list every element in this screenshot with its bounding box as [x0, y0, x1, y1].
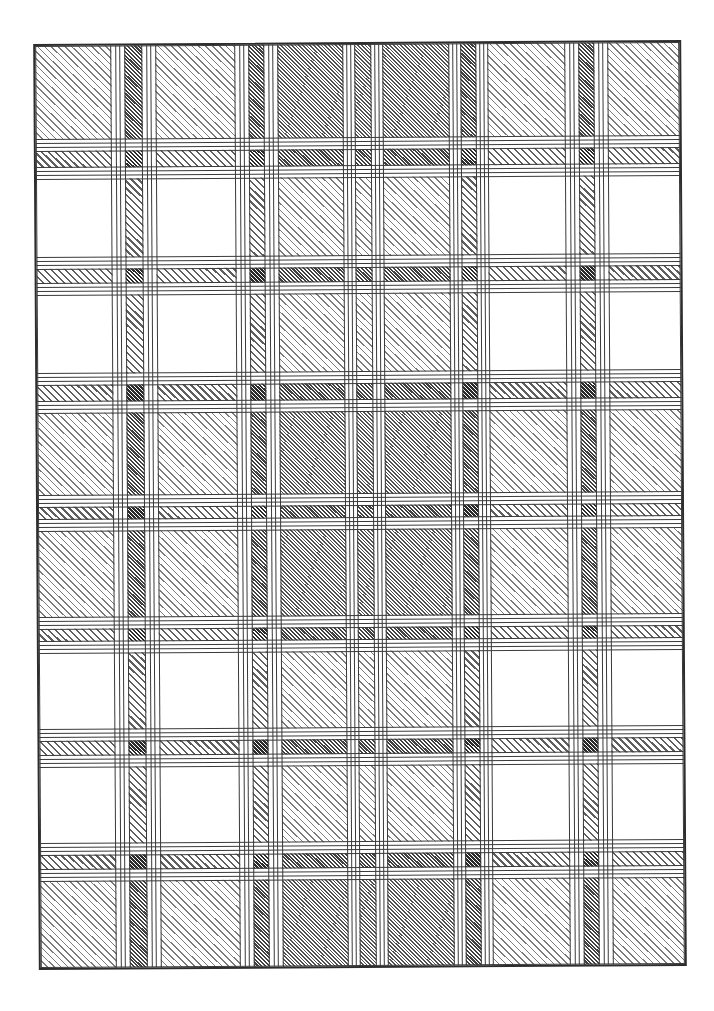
pattern-cell — [464, 650, 480, 727]
pattern-cell — [38, 507, 114, 520]
pattern-cell — [385, 504, 452, 517]
pattern-cell — [249, 178, 265, 257]
pattern-cell — [250, 268, 266, 283]
pattern-cell — [281, 627, 347, 640]
pattern-cell — [358, 651, 375, 728]
pattern-cell — [252, 740, 268, 755]
pattern-cell — [384, 266, 451, 281]
pattern-cell — [277, 44, 344, 138]
pattern-cell — [160, 880, 241, 967]
pattern-cell — [127, 530, 146, 617]
pattern-cell — [464, 738, 480, 753]
plaid-pattern-figure — [0, 0, 714, 1011]
pattern-cell — [492, 878, 571, 965]
band-outline-horizontal — [40, 755, 684, 764]
pattern-cell — [579, 148, 595, 165]
pattern-cell — [358, 627, 375, 640]
pattern-cell — [157, 268, 237, 283]
pattern-cell — [490, 504, 568, 517]
pattern-cell — [581, 504, 597, 517]
pattern-cell — [249, 150, 265, 167]
pattern-cell — [278, 149, 344, 166]
pattern-cell — [609, 265, 681, 280]
pattern-cell — [39, 629, 115, 642]
pattern-cell — [610, 527, 683, 614]
pattern-cell — [37, 385, 113, 402]
pattern-cell — [159, 740, 239, 755]
pattern-cell — [463, 504, 479, 517]
pattern-cell — [384, 382, 451, 399]
pattern-cell — [128, 628, 146, 641]
pattern-cell — [357, 505, 374, 518]
pattern-cell — [358, 739, 375, 754]
pattern-cell — [250, 384, 266, 401]
pattern-cell — [129, 854, 147, 869]
pattern-cell — [157, 384, 237, 401]
pattern-cell — [490, 528, 569, 615]
pattern-cell — [248, 45, 265, 139]
pattern-cell — [491, 626, 569, 639]
pattern-cell — [157, 412, 238, 495]
pattern-cell — [282, 853, 348, 868]
pattern-cell — [489, 266, 567, 281]
pattern-cell — [250, 294, 266, 373]
pattern-cell — [356, 411, 374, 494]
pattern-cell — [580, 410, 597, 493]
pattern-cell — [253, 854, 269, 869]
pattern-cell — [611, 737, 683, 752]
pattern-cell — [37, 269, 113, 284]
pattern-cell — [279, 411, 346, 494]
pattern-cell — [612, 877, 685, 964]
pattern-cell — [279, 293, 345, 372]
pattern-cell — [582, 738, 598, 753]
pattern-cell — [462, 410, 479, 493]
pattern-cell — [578, 43, 595, 137]
pattern-cell — [251, 530, 268, 617]
pattern-cell — [583, 878, 600, 965]
pattern-cell — [155, 45, 236, 139]
pattern-cell — [382, 43, 450, 137]
pattern-cell — [158, 530, 239, 617]
pattern-cell — [462, 292, 478, 371]
band-outline-horizontal — [40, 843, 684, 852]
pattern-cell — [610, 503, 682, 516]
pattern-cell — [609, 409, 682, 492]
pattern-cell — [359, 853, 376, 868]
pattern-cell — [251, 506, 267, 519]
band-outline-vertical — [598, 43, 609, 965]
pattern-cell — [460, 43, 477, 137]
pattern-cell — [487, 43, 566, 137]
band-outline-horizontal — [39, 617, 683, 626]
pattern-cell — [125, 150, 143, 167]
pattern-cell — [126, 268, 144, 283]
pattern-cell — [355, 177, 372, 256]
pattern-cell — [462, 266, 478, 281]
pattern-cell — [579, 176, 595, 255]
pattern-cell — [252, 652, 268, 729]
pattern-cell — [383, 148, 450, 165]
pattern-frame — [33, 40, 687, 970]
pattern-cell — [282, 765, 348, 842]
pattern-cell — [384, 292, 451, 371]
pattern-cell — [491, 738, 569, 753]
pattern-weave-area — [35, 42, 685, 968]
pattern-cell — [356, 383, 373, 400]
pattern-cell — [492, 852, 570, 867]
pattern-cell — [35, 46, 112, 140]
pattern-cell — [280, 505, 346, 518]
band-outline-horizontal — [40, 869, 684, 878]
pattern-cell — [253, 880, 270, 967]
pattern-cell — [607, 42, 680, 136]
pattern-cell — [357, 529, 375, 616]
pattern-cell — [281, 739, 347, 754]
pattern-cell — [580, 266, 596, 281]
pattern-cell — [461, 148, 477, 165]
pattern-cell — [465, 764, 481, 841]
pattern-cell — [128, 652, 146, 729]
pattern-cell — [465, 852, 481, 867]
pattern-cell — [387, 878, 455, 965]
pattern-cell — [581, 528, 598, 615]
pattern-cell — [127, 506, 145, 519]
pattern-cell — [126, 294, 144, 373]
pattern-cell — [40, 854, 116, 869]
